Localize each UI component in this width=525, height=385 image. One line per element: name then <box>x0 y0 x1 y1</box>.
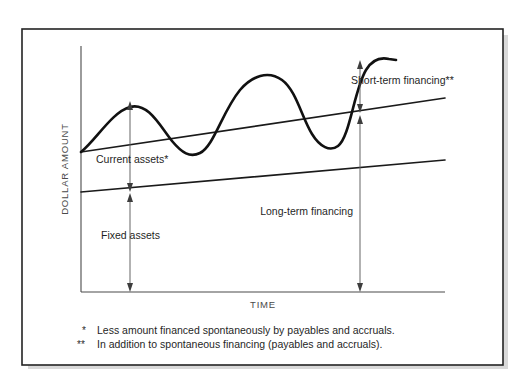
y-axis-title: DOLLAR AMOUNT <box>59 123 70 215</box>
current-assets-label: Current assets* <box>96 153 168 165</box>
short-term-financing-label: Short-term financing** <box>351 74 454 86</box>
x-axis-title: TIME <box>250 299 276 310</box>
footnote-mark-single: * <box>82 325 86 336</box>
footnote-text-double: In addition to spontaneous financing (pa… <box>97 338 382 350</box>
figure-panel: DOLLAR AMOUNT TIME Current assets* Fixed… <box>0 0 525 385</box>
footnote-mark-double: ** <box>77 339 85 350</box>
long-term-financing-label: Long-term financing <box>260 205 353 217</box>
footnote-text-single: Less amount financed spontaneously by pa… <box>97 324 395 336</box>
financing-diagram: DOLLAR AMOUNT TIME Current assets* Fixed… <box>0 0 525 385</box>
fixed-assets-label: Fixed assets <box>101 229 160 241</box>
